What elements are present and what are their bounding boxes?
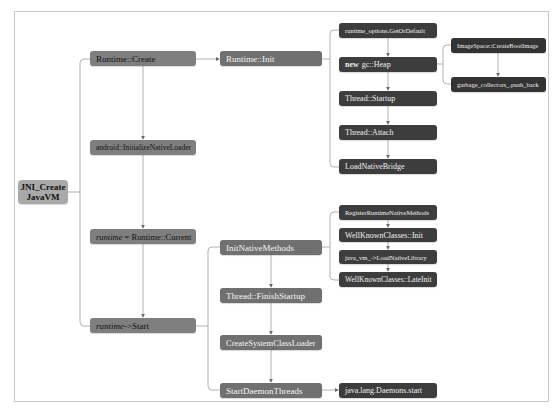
node-label-var: runtime <box>96 321 124 331</box>
node-label: LoadNativeBridge <box>345 162 405 171</box>
node-label-keyword: new <box>345 60 359 69</box>
node-label: Thread::Attach <box>345 128 393 137</box>
root-label-line1: JNI_Create <box>21 182 66 192</box>
node-label: garbage_collectors_.push_back <box>457 81 539 88</box>
node-create-system-class-loader: CreateSystemClassLoader <box>220 335 322 350</box>
node-label-rest: ->Start <box>124 321 149 331</box>
node-label-rest: gc::Heap <box>362 60 391 69</box>
node-label: Runtime::Create <box>96 54 155 64</box>
node-finish-startup: Thread::FinishStartup <box>220 288 322 303</box>
node-label: Runtime::Init <box>226 54 275 64</box>
node-label: InitNativeMethods <box>226 243 294 253</box>
node-label: WellKnownClasses::Init <box>345 231 423 240</box>
node-garbage-collectors-push-back: garbage_collectors_.push_back <box>451 77 546 92</box>
node-runtime-init: Runtime::Init <box>220 51 322 66</box>
node-label: java.lang.Daemons.start <box>345 386 422 395</box>
node-thread-attach: Thread::Attach <box>339 125 437 140</box>
node-start-daemon-threads: StartDaemonThreads <box>220 383 322 398</box>
node-load-native-bridge: LoadNativeBridge <box>339 159 437 174</box>
node-well-known-classes-init: WellKnownClasses::Init <box>339 228 437 242</box>
node-label: CreateSystemClassLoader <box>226 338 316 348</box>
node-label: ImageSpace::CreateBootImage <box>457 42 538 49</box>
node-label: java_vm_->LoadNativeLibrary <box>345 254 427 261</box>
node-load-native-library: java_vm_->LoadNativeLibrary <box>339 250 437 264</box>
node-label: Thread::FinishStartup <box>226 291 305 301</box>
node-label-var: runtime <box>96 232 122 242</box>
node-label: runtime_options.GetOrDefault <box>345 27 425 34</box>
node-daemons-start: java.lang.Daemons.start <box>339 383 437 398</box>
node-label: WellKnownClasses::LateInit <box>345 275 431 284</box>
node-well-known-classes-late-init: WellKnownClasses::LateInit <box>339 272 437 287</box>
node-thread-startup: Thread::Startup <box>339 91 437 106</box>
node-runtime-create: Runtime::Create <box>90 51 196 66</box>
node-new-gc-heap: newgc::Heap <box>339 57 437 72</box>
node-initialize-native-loader: android::InitializeNativeLoader <box>90 140 196 155</box>
node-label-rest: = Runtime::Current <box>125 232 192 242</box>
node-label: Thread::Startup <box>345 94 395 103</box>
node-create-boot-image: ImageSpace::CreateBootImage <box>451 38 546 53</box>
node-runtime-start: runtime->Start <box>90 318 196 333</box>
node-runtime-current: runtime = Runtime::Current <box>90 229 196 244</box>
node-register-runtime-native-methods: RegisterRuntimeNativeMethods <box>339 205 437 220</box>
node-label: RegisterRuntimeNativeMethods <box>345 209 429 216</box>
node-label: android::InitializeNativeLoader <box>96 143 191 152</box>
node-jni-create-javavm: JNI_Create JavaVM <box>18 180 68 204</box>
node-init-native-methods: InitNativeMethods <box>220 240 322 255</box>
node-get-or-default: runtime_options.GetOrDefault <box>339 23 437 38</box>
node-label: StartDaemonThreads <box>226 386 302 396</box>
root-label-line2: JavaVM <box>27 192 60 202</box>
